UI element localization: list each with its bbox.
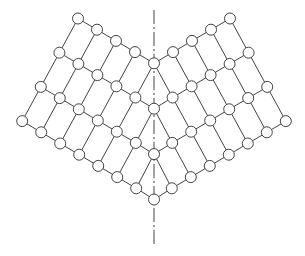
lattice-node [280,116,291,127]
lattice-node [261,127,272,138]
lattice-node [149,194,160,205]
lattice-node [17,116,28,127]
lattice-node [92,70,103,81]
lattice-node [224,58,235,69]
lattice-node [112,172,123,183]
lattice-node [55,138,66,149]
lattice-node [187,35,198,46]
lattice-node [130,137,141,148]
lattice-node [54,93,65,104]
lattice-node [225,13,236,24]
lattice-node [204,160,215,171]
lattice-node [206,24,217,35]
lattice-node [167,92,178,103]
lattice-diagram [0,0,305,256]
lattice-node [111,35,122,46]
lattice-node [130,47,141,58]
lattice-node [111,81,122,92]
lattice-node [93,160,104,171]
lattice-node [243,93,254,104]
lattice-node [54,47,65,58]
lattice-node [149,58,160,69]
lattice-node [36,127,47,138]
lattice-node [111,126,122,137]
lattice-node [205,70,216,81]
lattice-node [92,24,103,35]
lattice-node [131,183,142,194]
lattice-node [185,172,196,183]
lattice-node [73,13,84,24]
lattice-node [186,81,197,92]
lattice-node [186,126,197,137]
lattice-node [223,149,234,160]
lattice-node [168,47,179,58]
lattice-node [243,47,254,58]
lattice-node [224,104,235,115]
lattice-node [167,137,178,148]
lattice-node [242,138,253,149]
lattice-node [130,92,141,103]
lattice-node [92,115,103,126]
lattice-node [205,115,216,126]
lattice-node [73,58,84,69]
lattice-node [73,104,84,115]
lattice-node [35,81,46,92]
lattice-node [149,103,160,114]
lattice-node [74,149,85,160]
lattice-node [149,149,160,160]
lattice-node [262,81,273,92]
lattice-node [166,183,177,194]
